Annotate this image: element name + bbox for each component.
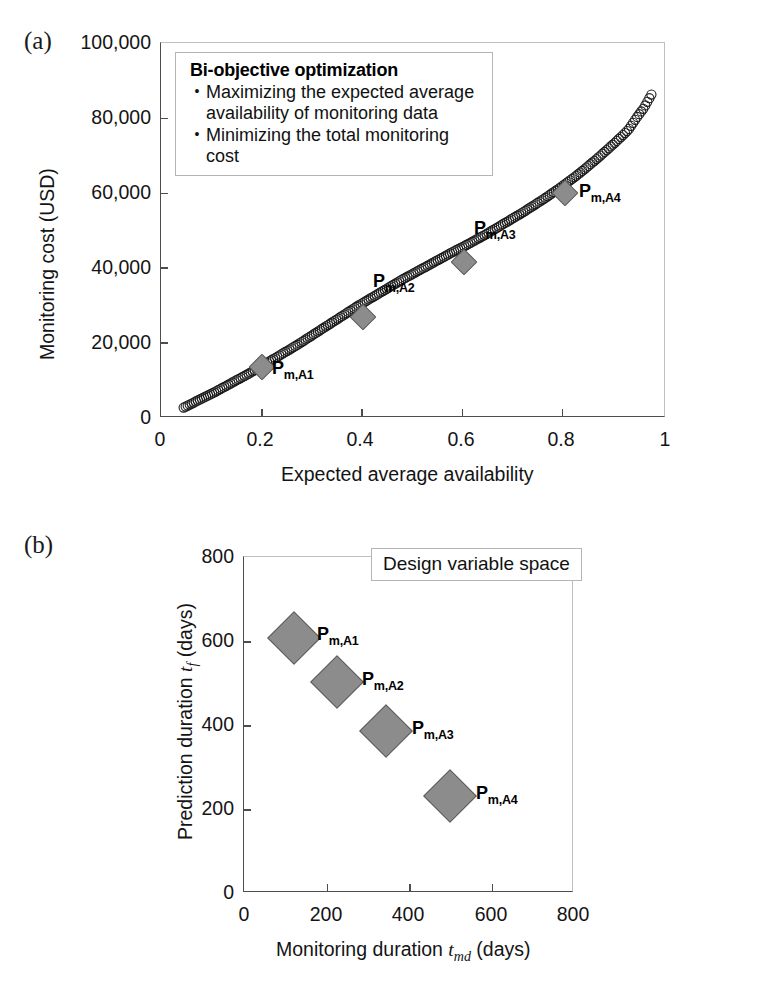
panel-a-x-tick-0.4: 0.4	[330, 428, 390, 451]
panel-b-y-tick-600: 600	[180, 629, 234, 652]
panel-a-y-tick-40000: 40,000	[48, 256, 151, 279]
panel-a-label-pm-a1-sub: m,A1	[284, 368, 314, 382]
panel-a-ytick-mark-60000	[161, 193, 168, 195]
panel-a-label-pm-a1: Pm,A1	[272, 358, 314, 382]
panel-b-label-pm-a3-sub: m,A3	[424, 728, 454, 742]
panel-a-x-tick-1: 1	[635, 428, 695, 451]
panel-b-y-var-sub: f	[184, 663, 200, 667]
panel-b-label-pm-a4: Pm,A4	[476, 783, 518, 807]
panel-a-xtick-mark-0.8	[562, 409, 564, 416]
panel-a-marker-pm-a3[interactable]	[451, 249, 478, 276]
panel-a-marker-pm-a4[interactable]	[552, 180, 579, 207]
panel-b-marker-pm-a3[interactable]	[359, 704, 413, 758]
panel-a-x-tick-0.8: 0.8	[531, 428, 591, 451]
panel-a-label-pm-a4: Pm,A4	[579, 181, 621, 205]
panel-b-x-var-sub: md	[454, 948, 471, 964]
panel-b-ytick-mark-200	[244, 809, 251, 811]
panel-a-label-pm-a3-base: P	[474, 218, 486, 238]
panel-a-label-pm-a3-sub: m,A3	[486, 228, 516, 242]
panel-a-legend-item-1: • Maximizing the expected average availa…	[188, 82, 480, 124]
panel-a-y-tick-0: 0	[48, 406, 151, 429]
panel-a-y-tick-100000: 100,000	[48, 31, 151, 54]
panel-a-label-pm-a2-base: P	[373, 271, 385, 291]
panel-b-ytick-mark-600	[244, 641, 251, 643]
panel-b-label-pm-a1-base: P	[317, 624, 329, 644]
panel-b-y-tick-400: 400	[180, 713, 234, 736]
panel-b-tag: (b)	[24, 531, 53, 559]
panel-a-xtick-mark-0.4	[361, 409, 363, 416]
panel-a-label-pm-a3: Pm,A3	[474, 218, 516, 242]
panel-a-x-tick-0: 0	[130, 428, 190, 451]
panel-b-marker-pm-a2[interactable]	[310, 655, 364, 709]
panel-b-label-pm-a3: Pm,A3	[412, 718, 454, 742]
panel-a-y-tick-80000: 80,000	[48, 106, 151, 129]
panel-b-label-pm-a1-sub: m,A1	[329, 634, 359, 648]
panel-a-legend-item-2: • Minimizing the total monitoring cost	[188, 125, 480, 167]
bullet-icon: •	[188, 125, 206, 144]
panel-b-label-pm-a3-base: P	[412, 718, 424, 738]
panel-a-y-tick-20000: 20,000	[48, 331, 151, 354]
panel-b-xtick-mark-400	[409, 884, 411, 891]
panel-b-label-pm-a2: Pm,A2	[362, 669, 404, 693]
panel-a-ytick-mark-20000	[161, 342, 168, 344]
panel-a-x-axis-title: Expected average availability	[281, 463, 534, 486]
panel-a-legend-item-1-text: Maximizing the expected average availabi…	[206, 82, 480, 124]
panel-a-legend-item-2-text: Minimizing the total monitoring cost	[206, 125, 480, 167]
panel-a-legend-title: Bi-objective optimization	[190, 60, 480, 81]
panel-b-y-var-base: t	[175, 667, 196, 672]
panel-b-x-axis-title-pre: Monitoring duration	[276, 938, 448, 960]
panel-b-y-tick-800: 800	[180, 545, 234, 568]
panel-b-x-axis-title-post: (days)	[471, 938, 531, 960]
panel-a-label-pm-a1-base: P	[272, 358, 284, 378]
panel-a-xtick-mark-0.2	[261, 409, 263, 416]
panel-b-label-pm-a2-sub: m,A2	[374, 679, 404, 693]
panel-b-label-pm-a4-base: P	[476, 783, 488, 803]
panel-b-x-tick-200: 200	[296, 903, 356, 926]
panel-b-label-pm-a4-sub: m,A4	[488, 793, 518, 807]
panel-b-x-axis-title: Monitoring duration tmd (days)	[276, 938, 531, 965]
bullet-icon: •	[188, 82, 206, 101]
panel-b-y-tick-200: 200	[180, 797, 234, 820]
panel-a-label-pm-a2-sub: m,A2	[385, 281, 415, 295]
panel-a-ytick-mark-80000	[161, 118, 168, 120]
panel-b-plot-area: Pm,A1 Pm,A2 Pm,A3 Pm,A4	[243, 556, 573, 892]
panel-b-x-tick-400: 400	[378, 903, 438, 926]
panel-b-marker-pm-a4[interactable]	[423, 769, 477, 823]
panel-a-label-pm-a2: Pm,A2	[373, 271, 415, 295]
panel-b-marker-pm-a1[interactable]	[267, 611, 321, 665]
panel-b-xtick-mark-600	[492, 884, 494, 891]
panel-b-y-axis-title-var: tf	[175, 663, 196, 672]
panel-b-x-tick-600: 600	[461, 903, 521, 926]
panel-b-x-tick-800: 800	[543, 903, 603, 926]
panel-a-x-tick-0.2: 0.2	[230, 428, 290, 451]
panel-a-marker-pm-a2[interactable]	[350, 303, 377, 330]
panel-b-xtick-mark-200	[327, 884, 329, 891]
panel-b-x-tick-0: 0	[214, 903, 274, 926]
panel-a-y-tick-60000: 60,000	[48, 181, 151, 204]
panel-a-xtick-mark-0.6	[462, 409, 464, 416]
panel-b-label-pm-a1: Pm,A1	[317, 624, 359, 648]
panel-b-title-box: Design variable space	[371, 548, 582, 581]
panel-a-ytick-mark-40000	[161, 267, 168, 269]
panel-b-x-axis-title-var: tmd	[448, 939, 471, 960]
panel-b-y-tick-0: 0	[180, 881, 234, 904]
panel-a-label-pm-a4-sub: m,A4	[591, 191, 621, 205]
panel-b-ytick-mark-400	[244, 725, 251, 727]
panel-a-label-pm-a4-base: P	[579, 181, 591, 201]
panel-a-legend-box: Bi-objective optimization • Maximizing t…	[175, 52, 493, 176]
panel-a-x-tick-0.6: 0.6	[431, 428, 491, 451]
panel-b-label-pm-a2-base: P	[362, 669, 374, 689]
